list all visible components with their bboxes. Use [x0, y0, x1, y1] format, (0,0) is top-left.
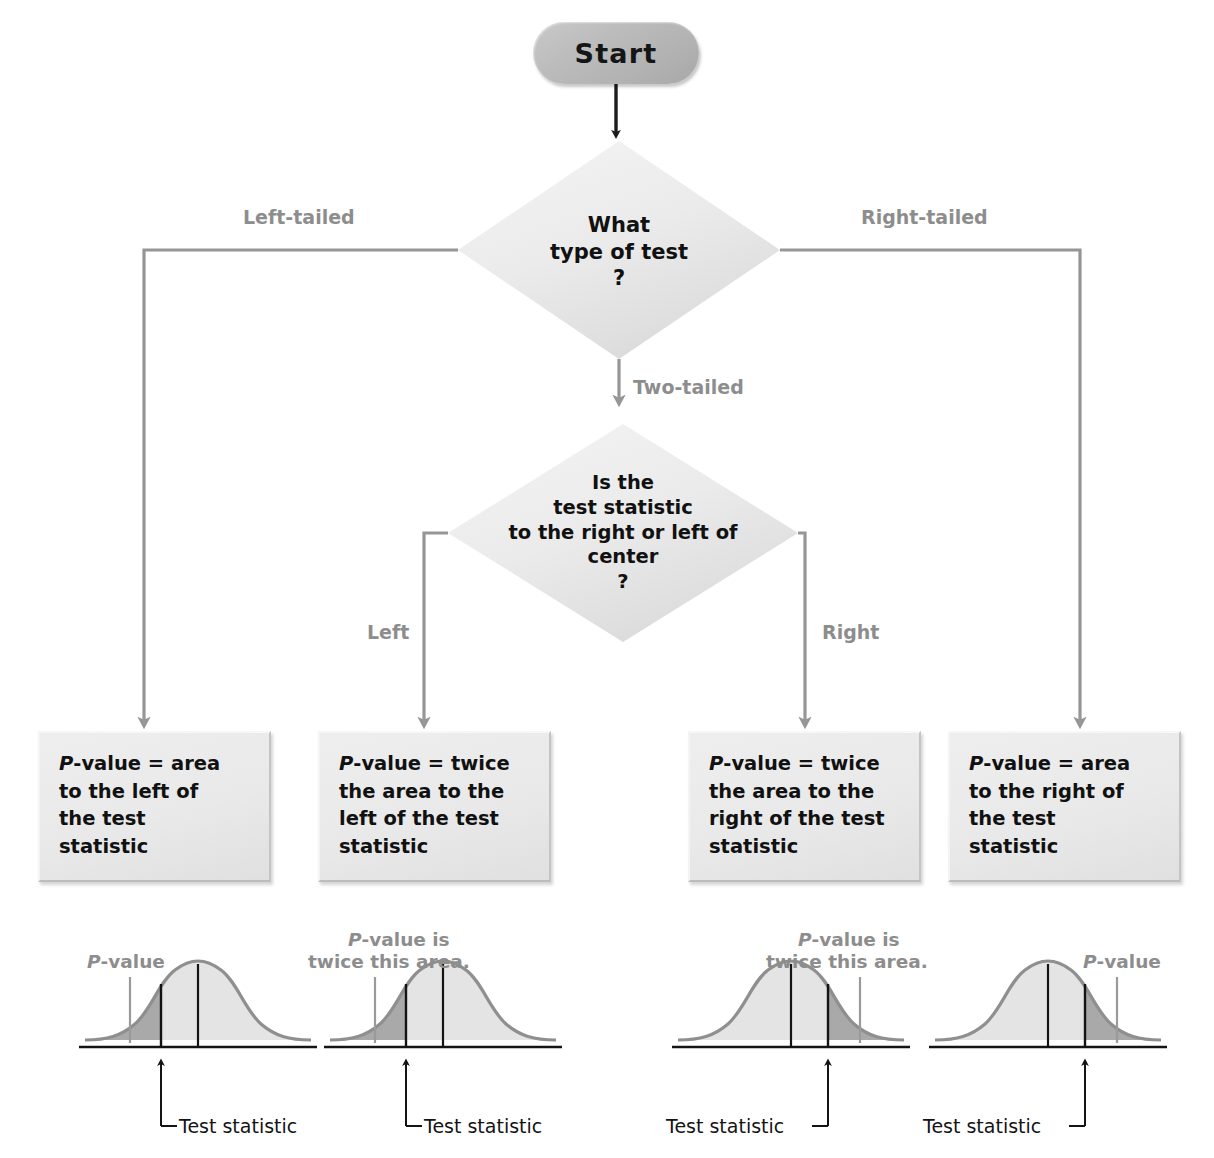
result1-line-4: statistic: [59, 833, 269, 861]
wire-right-branch: [798, 533, 805, 722]
wire-left-tailed: [144, 250, 458, 722]
decision1-line-1: What: [588, 212, 650, 239]
edge-label-left-tailed: Left-tailed: [243, 206, 355, 228]
decision2-line-4: center: [588, 545, 659, 570]
p-value-note: P-value: [87, 951, 165, 972]
start-label: Start: [575, 38, 658, 69]
edge-label-right-tailed: Right-tailed: [861, 206, 988, 228]
result-box-right-tailed[interactable]: P-value = area to the right of the test …: [948, 731, 1181, 882]
result2-line-2: the area to the: [339, 778, 549, 806]
p-value-note-line-2: twice this area.: [308, 951, 470, 972]
result1-line-2: to the left of: [59, 778, 269, 806]
result3-line-2: the area to the: [709, 778, 919, 806]
p-italic: P: [709, 752, 723, 775]
flowchart-canvas: Start What type of test ? Is the test st…: [0, 0, 1214, 1158]
result2-line-1: -value = twice: [353, 752, 509, 775]
edge-label-right: Right: [822, 621, 879, 643]
test-statistic-label: Test statistic: [922, 1115, 1041, 1137]
result-text: P-value = area to the left of the test s…: [59, 750, 269, 861]
result-box-two-tailed-left[interactable]: P-value = twice the area to the left of …: [318, 731, 551, 882]
decision2-line-1: Is the: [592, 471, 654, 496]
p-value-note: P-value: [1083, 951, 1161, 972]
decision-text: Is the test statistic to the right or le…: [448, 424, 798, 642]
p-italic: P: [339, 752, 353, 775]
figure-right-tailed: P-value Test statistic: [905, 920, 1205, 1150]
p-italic: P: [59, 752, 73, 775]
result2-line-4: statistic: [339, 833, 549, 861]
p-italic-2: P: [348, 929, 362, 950]
result4-line-3: the test: [969, 805, 1179, 833]
decision2-line-2: test statistic: [553, 496, 693, 521]
result2-line-3: left of the test: [339, 805, 549, 833]
decision-right-or-left-of-center[interactable]: Is the test statistic to the right or le…: [448, 424, 798, 642]
result4-line-2: to the right of: [969, 778, 1179, 806]
result1-line-1: -value = area: [73, 752, 220, 775]
decision2-line-5: ?: [617, 570, 628, 595]
decision-type-of-test[interactable]: What type of test ?: [458, 141, 780, 359]
result-box-two-tailed-right[interactable]: P-value = twice the area to the right of…: [688, 731, 921, 882]
result4-line-1: -value = area: [983, 752, 1130, 775]
decision1-line-3: ?: [613, 265, 625, 292]
p-value-note-line-1-group: P-value is: [348, 929, 450, 950]
decision1-line-2: type of test: [550, 239, 688, 266]
decision2-line-3: to the right or left of: [508, 521, 737, 546]
result-text: P-value = twice the area to the right of…: [709, 750, 919, 861]
p-italic-4: P: [1083, 951, 1097, 972]
p-italic: P: [969, 752, 983, 775]
result3-line-4: statistic: [709, 833, 919, 861]
wire-right-tailed: [780, 250, 1080, 722]
p-value-note-line-2: twice this area.: [766, 951, 928, 972]
result3-line-3: right of the test: [709, 805, 919, 833]
start-node[interactable]: Start: [533, 22, 699, 84]
edge-label-two-tailed: Two-tailed: [633, 376, 744, 398]
p-value-note-line-1: -value is: [362, 929, 450, 950]
p-value-note-line-1-group: P-value is: [798, 929, 900, 950]
wire-left-branch: [424, 533, 448, 722]
figure-two-tailed-left: P-value is twice this area. Test statist…: [300, 920, 600, 1150]
p-value-note-line-1: -value is: [812, 929, 900, 950]
result-box-left-tailed[interactable]: P-value = area to the left of the test s…: [38, 731, 271, 882]
p-value-note-line-1: -value: [101, 951, 165, 972]
p-value-note-line-1: -value: [1097, 951, 1161, 972]
p-italic-3: P: [798, 929, 812, 950]
result3-line-1: -value = twice: [723, 752, 879, 775]
test-statistic-label: Test statistic: [178, 1115, 297, 1137]
result1-line-3: the test: [59, 805, 269, 833]
result4-line-4: statistic: [969, 833, 1179, 861]
result-text: P-value = twice the area to the left of …: [339, 750, 549, 861]
result-text: P-value = area to the right of the test …: [969, 750, 1179, 861]
figure-two-tailed-right: P-value is twice this area. Test statist…: [648, 920, 948, 1150]
test-statistic-label: Test statistic: [665, 1115, 784, 1137]
p-italic-1: P: [87, 951, 101, 972]
test-statistic-label: Test statistic: [423, 1115, 542, 1137]
edge-label-left: Left: [367, 621, 409, 643]
decision-text: What type of test ?: [458, 141, 780, 361]
